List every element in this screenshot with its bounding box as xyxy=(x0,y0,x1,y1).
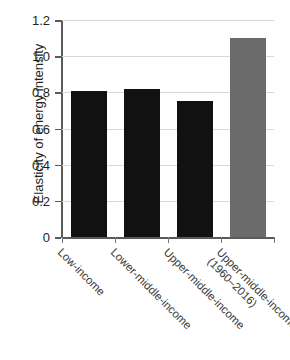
x-axis-label: Low-income xyxy=(55,246,108,299)
bar xyxy=(177,101,213,237)
y-tick-label: 0 xyxy=(4,230,50,245)
y-tick-label: 0.2 xyxy=(4,193,50,208)
y-tick-mark xyxy=(55,129,61,131)
bar xyxy=(124,89,160,237)
y-tick-label: 0.6 xyxy=(4,121,50,136)
y-tick-label: 0.4 xyxy=(4,157,50,172)
plot-area xyxy=(62,20,274,237)
x-tick-mark xyxy=(274,237,275,243)
y-tick-label: 0.8 xyxy=(4,85,50,100)
bar xyxy=(230,38,266,237)
gridline xyxy=(62,20,274,21)
y-tick-mark xyxy=(55,92,61,94)
x-tick-mark xyxy=(221,237,222,243)
y-tick-label: 1.2 xyxy=(4,13,50,28)
x-tick-mark xyxy=(115,237,116,243)
x-tick-mark xyxy=(62,237,63,243)
y-tick-mark xyxy=(55,165,61,167)
y-tick-mark xyxy=(55,237,61,239)
bar-chart: Elasticity of energy intensity 00.20.40.… xyxy=(0,0,290,360)
y-tick-mark xyxy=(55,56,61,58)
bar xyxy=(71,91,107,237)
x-label-line: Low-income xyxy=(56,246,108,298)
y-tick-mark xyxy=(55,201,61,203)
x-tick-mark xyxy=(168,237,169,243)
y-tick-label: 1.0 xyxy=(4,49,50,64)
y-tick-mark xyxy=(55,20,61,22)
